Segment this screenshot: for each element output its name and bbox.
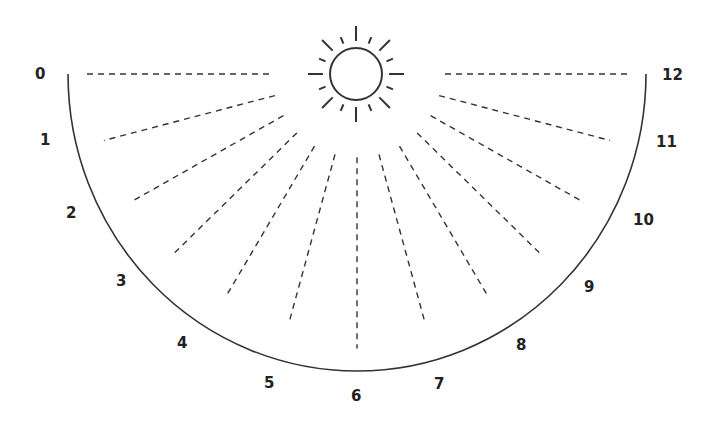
sun-ray <box>379 97 390 108</box>
hour-label-9: 9 <box>584 278 594 296</box>
sun-disc <box>330 48 382 100</box>
sun-ray <box>369 104 372 110</box>
hour-line-4 <box>226 146 315 296</box>
hour-label-7: 7 <box>434 375 444 393</box>
hour-label-2: 2 <box>66 204 76 222</box>
hour-label-11: 11 <box>656 133 677 151</box>
hour-line-5 <box>289 154 335 322</box>
hour-label-12: 12 <box>662 66 683 84</box>
sun-ray <box>379 40 390 51</box>
sun-ray <box>319 59 325 62</box>
sun-icon <box>308 26 404 122</box>
hour-line-10 <box>431 116 584 203</box>
hour-label-10: 10 <box>633 211 654 229</box>
sun-ray <box>319 87 325 90</box>
sundial-diagram: 0123456789101112 <box>0 0 709 426</box>
hour-label-8: 8 <box>516 336 526 354</box>
hour-line-2 <box>130 116 283 203</box>
hour-label-1: 1 <box>40 131 50 149</box>
hour-line-7 <box>379 154 425 322</box>
sun-ray <box>386 87 392 90</box>
hour-label-6: 6 <box>351 387 361 405</box>
sun-ray <box>369 37 372 43</box>
sun-ray <box>386 59 392 62</box>
hour-line-9 <box>417 133 542 256</box>
hour-label-5: 5 <box>264 374 274 392</box>
hour-line-1 <box>104 96 275 141</box>
hour-line-11 <box>439 96 610 141</box>
sun-ray <box>341 37 344 43</box>
sun-ray <box>341 104 344 110</box>
hour-labels: 0123456789101112 <box>35 65 683 405</box>
hour-label-0: 0 <box>35 65 45 83</box>
sun-ray <box>322 97 333 108</box>
hour-label-3: 3 <box>116 272 126 290</box>
hour-line-3 <box>172 133 297 256</box>
hour-line-8 <box>400 146 489 296</box>
sun-ray <box>322 40 333 51</box>
hour-label-4: 4 <box>177 334 187 352</box>
